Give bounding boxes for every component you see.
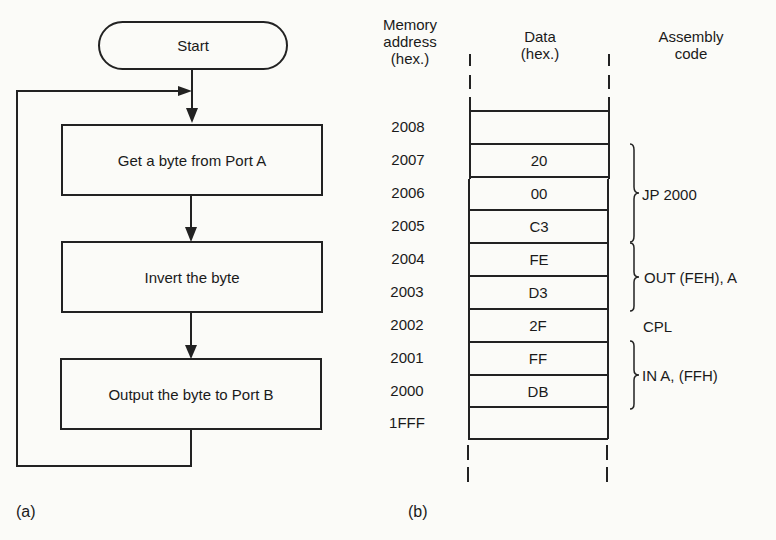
address-label: 2006 — [368, 184, 448, 201]
asm-in: IN A, (FFH) — [642, 367, 718, 384]
step-label: Get a byte from Port A — [118, 152, 266, 169]
figure-label-a: (a) — [16, 503, 36, 520]
address-label: 2005 — [368, 217, 448, 234]
brace-icons — [630, 144, 639, 409]
memory-cell-1fff — [469, 406, 607, 439]
memory-cell-2006: 00 — [470, 176, 608, 209]
asm-out: OUT (FEH), A — [644, 269, 737, 286]
address-label: 2000 — [367, 382, 447, 399]
asm-jp: JP 2000 — [642, 186, 697, 203]
figure-label-b: (b) — [408, 503, 428, 520]
step-label: Invert the byte — [144, 269, 239, 286]
address-label: 2003 — [367, 283, 447, 300]
address-label: 2004 — [368, 250, 448, 267]
address-label: 2002 — [367, 316, 447, 333]
memory-cell-2008 — [470, 110, 608, 143]
memory-cell-2000: DB — [469, 374, 607, 407]
memory-cell-2003: D3 — [469, 275, 607, 308]
memory-cell-2007: 20 — [470, 143, 608, 176]
step-output-byte: Output the byte to Port B — [60, 358, 322, 430]
memory-cell-2004: FE — [470, 242, 608, 275]
address-label: 2007 — [368, 151, 448, 168]
memory-map: Memory address (hex.) Data (hex.) Assemb… — [360, 0, 776, 540]
address-label: 2008 — [368, 118, 448, 135]
step-get-byte: Get a byte from Port A — [61, 124, 323, 196]
start-label: Start — [177, 37, 209, 54]
address-label: 2001 — [367, 349, 447, 366]
step-invert-byte: Invert the byte — [61, 241, 323, 313]
memory-cell-2005: C3 — [470, 209, 608, 242]
memory-cell-2002: 2F — [469, 308, 607, 341]
step-label: Output the byte to Port B — [108, 386, 273, 403]
asm-cpl: CPL — [643, 318, 672, 335]
address-label: 1FFF — [367, 414, 447, 431]
start-terminal: Start — [98, 21, 288, 70]
memory-cell-2001: FF — [469, 341, 607, 374]
